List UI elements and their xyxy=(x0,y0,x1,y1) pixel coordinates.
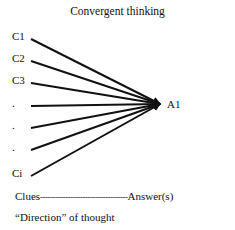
axis-dashes: ----------------------------------- xyxy=(40,192,127,202)
clue-label: . xyxy=(12,142,15,153)
clue-arrow xyxy=(31,104,160,176)
answer-label: A1 xyxy=(167,99,180,110)
clue-label: Ci xyxy=(12,168,22,179)
clue-label: . xyxy=(12,98,15,109)
clue-label: . xyxy=(12,120,15,131)
clue-arrow xyxy=(31,104,160,106)
clues-answer-axis: Clues-----------------------------------… xyxy=(15,191,173,202)
clue-label: C2 xyxy=(12,53,25,64)
axis-left-label: Clues xyxy=(15,190,40,202)
clue-label: C3 xyxy=(12,75,25,86)
clue-label: C1 xyxy=(12,31,25,42)
direction-caption: “Direction” of thought xyxy=(15,212,115,223)
clue-arrow xyxy=(31,104,160,128)
clue-arrow xyxy=(31,61,160,104)
clue-arrow xyxy=(31,104,160,150)
axis-right-label: Answer(s) xyxy=(127,190,173,202)
